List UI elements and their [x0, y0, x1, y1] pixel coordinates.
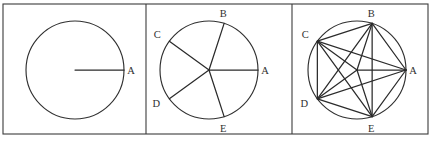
panel-2-label-D: D — [153, 98, 161, 109]
panel-3-label-C: C — [302, 29, 309, 40]
panel-3-radius-B — [357, 23, 372, 70]
panel-3-radius-D — [317, 70, 357, 99]
panel-3-label-E: E — [368, 123, 374, 134]
panel-2-radius-D — [169, 70, 209, 99]
panel-3: ABCDE — [301, 8, 418, 133]
figure-canvas: AABCDEABCDE — [0, 0, 440, 143]
panel-2-label-A: A — [261, 65, 269, 76]
panel-1-label-A: A — [127, 65, 135, 76]
panel-2-radius-C — [169, 41, 209, 70]
geometry-diagram: AABCDEABCDE — [0, 0, 440, 143]
panel-2-radius-E — [209, 70, 224, 117]
panel-3-radius-E — [357, 70, 372, 117]
panel-3-label-B: B — [368, 8, 375, 19]
panel-2-label-B: B — [220, 8, 227, 19]
panel-2-label-C: C — [154, 29, 161, 40]
panel-2-label-E: E — [220, 123, 226, 134]
panel-1: A — [26, 21, 135, 119]
panel-3-chord-AB — [372, 23, 406, 70]
panel-group: AABCDEABCDE — [26, 8, 417, 133]
panel-2-radius-B — [209, 23, 224, 70]
panel-3-label-A: A — [409, 65, 417, 76]
panel-3-label-D: D — [301, 98, 309, 109]
panel-3-radius-C — [317, 41, 357, 70]
panel-3-chord-EA — [372, 70, 406, 117]
panel-2: ABCDE — [153, 8, 270, 133]
